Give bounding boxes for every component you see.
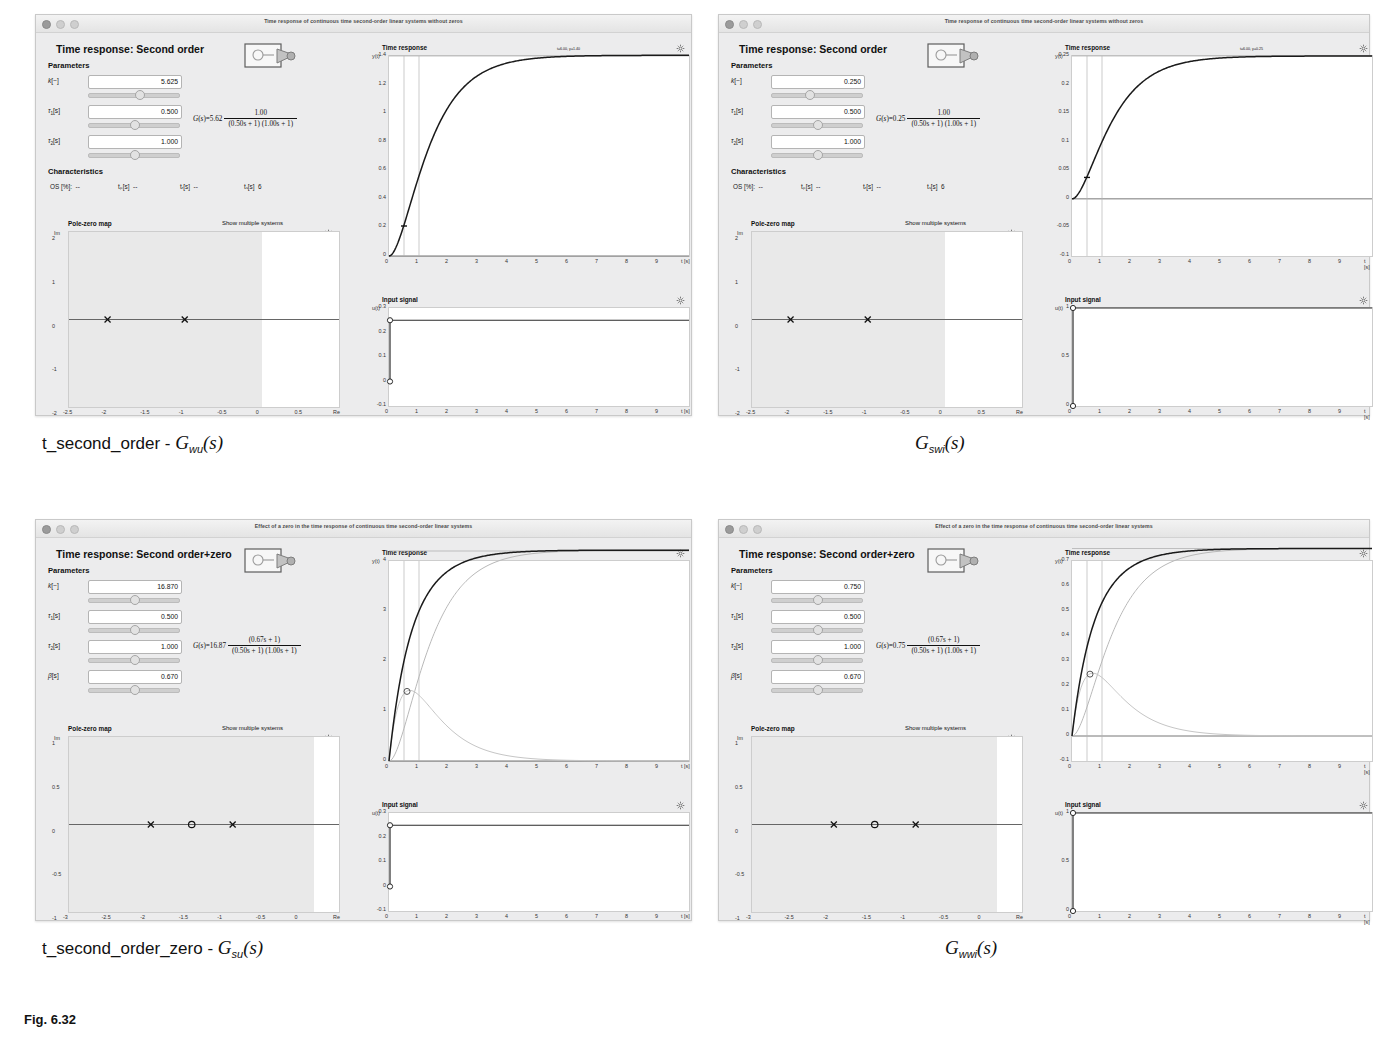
parameter-value-field[interactable]: 0.500 <box>771 105 865 119</box>
step-origin-marker <box>387 884 392 889</box>
time-response-xtick: 5 <box>1218 763 1221 769</box>
show-multiple-systems-label[interactable]: Show multiple systems <box>905 725 966 731</box>
slider-knob[interactable] <box>135 90 145 100</box>
input-signal-ytick: 0.2 <box>368 833 386 839</box>
parameter-value-field[interactable]: 1.000 <box>771 135 865 149</box>
slider-knob[interactable] <box>813 595 823 605</box>
parameter-value-field[interactable]: 0.500 <box>771 610 865 624</box>
characteristic-item: tₛ[s] 6 <box>927 183 945 191</box>
app-window[interactable]: Time response of continuous time second-… <box>35 14 692 416</box>
parameter-value-field[interactable]: 1.000 <box>88 640 182 654</box>
app-window[interactable]: Effect of a zero in the time response of… <box>718 519 1370 921</box>
pole-zero-map-plot[interactable] <box>68 736 340 913</box>
parameter-slider[interactable] <box>771 149 863 159</box>
input-signal-ytick: 0 <box>368 377 386 383</box>
block-diagram-thumbnail[interactable] <box>244 41 302 73</box>
slider-knob[interactable] <box>130 655 140 665</box>
settings-gear-icon[interactable] <box>1359 44 1368 53</box>
window-titlebar[interactable]: Effect of a zero in the time response of… <box>36 520 691 538</box>
settings-gear-icon[interactable] <box>1359 549 1368 558</box>
input-signal-xtick: 8 <box>1308 913 1311 919</box>
parameter-slider[interactable] <box>88 684 180 694</box>
input-signal-plot[interactable] <box>1071 307 1373 407</box>
characteristic-label: tᵣ[s] <box>863 183 873 190</box>
parameter-value-field[interactable]: 0.500 <box>88 610 182 624</box>
time-response-plot[interactable] <box>1071 560 1373 762</box>
block-diagram-thumbnail[interactable] <box>244 546 302 578</box>
slider-knob[interactable] <box>130 150 140 160</box>
parameter-value-field[interactable]: 1.000 <box>771 640 865 654</box>
parameter-row: k[−] 16.870 <box>48 580 348 606</box>
pole-zero-map-plot[interactable] <box>751 736 1023 913</box>
app-window[interactable]: Effect of a zero in the time response of… <box>35 519 692 921</box>
parameter-slider[interactable] <box>88 149 180 159</box>
parameter-label: β[s] <box>731 672 742 679</box>
parameter-value-field[interactable]: 0.670 <box>88 670 182 684</box>
pole-zero-xtick: -1 <box>217 914 222 920</box>
time-response-xtick: 8 <box>1308 258 1311 264</box>
parameter-value-field[interactable]: 0.500 <box>88 105 182 119</box>
slider-knob[interactable] <box>130 120 140 130</box>
pole-zero-map-title: Pole-zero map <box>751 220 795 227</box>
settings-gear-icon[interactable] <box>1359 801 1368 810</box>
parameter-value-field[interactable]: 0.670 <box>771 670 865 684</box>
parameter-slider[interactable] <box>88 624 180 634</box>
time-response-xtick: 3 <box>475 258 478 264</box>
show-multiple-systems-label[interactable]: Show multiple systems <box>905 220 966 226</box>
settings-gear-icon[interactable] <box>676 296 685 305</box>
parameter-slider[interactable] <box>771 594 863 604</box>
show-multiple-systems-label[interactable]: Show multiple systems <box>222 220 283 226</box>
pole-zero-map-plot[interactable] <box>68 231 340 408</box>
parameter-value-field[interactable]: 16.870 <box>88 580 182 594</box>
parameter-value-field[interactable]: 5.625 <box>88 75 182 89</box>
pole-zero-xtick: -2 <box>102 409 107 415</box>
settings-gear-icon[interactable] <box>676 801 685 810</box>
time-response-plot[interactable] <box>388 560 690 762</box>
slider-knob[interactable] <box>813 655 823 665</box>
slider-knob[interactable] <box>130 625 140 635</box>
transfer-function-lhs: G(s)=16.87 <box>193 642 226 650</box>
settings-gear-icon[interactable] <box>1359 296 1368 305</box>
slider-knob[interactable] <box>813 120 823 130</box>
parameter-value-field[interactable]: 1.000 <box>88 135 182 149</box>
input-signal-xtick: t [s] <box>1364 408 1370 420</box>
slider-knob[interactable] <box>813 625 823 635</box>
window-titlebar[interactable]: Effect of a zero in the time response of… <box>719 520 1369 538</box>
parameter-value-field[interactable]: 0.750 <box>771 580 865 594</box>
time-response-xtick: 4 <box>505 763 508 769</box>
slider-knob[interactable] <box>130 685 140 695</box>
slider-knob[interactable] <box>813 150 823 160</box>
parameter-slider[interactable] <box>88 119 180 129</box>
settings-gear-icon[interactable] <box>676 44 685 53</box>
parameter-value-field[interactable]: 0.250 <box>771 75 865 89</box>
window-titlebar[interactable]: Time response of continuous time second-… <box>36 15 691 33</box>
parameter-slider[interactable] <box>88 594 180 604</box>
pole-zero-map-plot[interactable] <box>751 231 1023 408</box>
time-response-plot[interactable]: t=6.00, y=0.25 <box>1071 55 1373 257</box>
input-signal-plot[interactable] <box>388 812 690 912</box>
input-signal-plot[interactable] <box>388 307 690 407</box>
parameter-slider[interactable] <box>771 624 863 634</box>
parameter-slider[interactable] <box>771 89 863 99</box>
panel-heading: Time response: Second order+zero <box>739 548 915 560</box>
parameter-slider[interactable] <box>88 654 180 664</box>
transfer-function-denominator: (0.50s + 1) (1.00s + 1) <box>907 118 980 128</box>
parameter-slider[interactable] <box>771 119 863 129</box>
time-response-ytick: 0.2 <box>1051 681 1069 687</box>
parameter-label: k[−] <box>731 582 742 589</box>
app-window[interactable]: Time response of continuous time second-… <box>718 14 1370 416</box>
block-diagram-thumbnail[interactable] <box>927 546 985 578</box>
show-multiple-systems-label[interactable]: Show multiple systems <box>222 725 283 731</box>
window-titlebar[interactable]: Time response of continuous time second-… <box>719 15 1369 33</box>
slider-knob[interactable] <box>130 595 140 605</box>
time-response-plot[interactable]: t=6.00, y=1.40 <box>388 55 690 257</box>
slider-knob[interactable] <box>805 90 815 100</box>
parameter-slider[interactable] <box>771 684 863 694</box>
slider-knob[interactable] <box>813 685 823 695</box>
input-signal-plot[interactable] <box>1071 812 1373 912</box>
block-diagram-thumbnail[interactable] <box>927 41 985 73</box>
parameter-slider[interactable] <box>88 89 180 99</box>
parameter-slider[interactable] <box>771 654 863 664</box>
input-signal-title: Input signal <box>382 801 418 808</box>
pole-zero-map-title: Pole-zero map <box>68 725 112 732</box>
